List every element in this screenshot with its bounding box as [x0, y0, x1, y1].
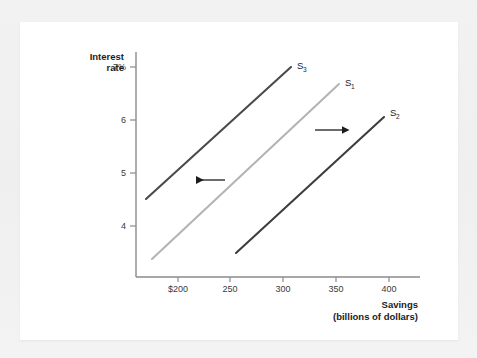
y-tick-label-5: 5 — [121, 168, 126, 178]
y-axis-title-line2: rate — [107, 62, 124, 73]
curve-s3-label-subscript: 3 — [303, 66, 307, 73]
x-axis-ticks — [178, 277, 389, 282]
x-axis-title: Savings (billions of dollars) — [333, 299, 418, 322]
x-tick-label-350: 350 — [328, 284, 343, 294]
curve-s1-line — [152, 84, 339, 259]
x-axis-title-line1: Savings — [382, 299, 418, 310]
curve-s2-line — [236, 117, 384, 253]
curve-s2: S 2 — [236, 107, 400, 253]
x-tick-label-400: 400 — [381, 284, 396, 294]
y-axis-title-line1: Interest — [90, 51, 125, 62]
curve-s1: S 1 — [152, 77, 355, 259]
x-axis-tick-labels: $200 250 300 350 400 — [168, 284, 397, 294]
x-tick-label-200: $200 — [168, 284, 188, 294]
chart-axes — [136, 52, 420, 277]
x-tick-label-300: 300 — [275, 284, 290, 294]
x-axis-title-line2: (billions of dollars) — [333, 311, 418, 322]
y-axis-ticks — [130, 67, 136, 226]
curve-s2-label-subscript: 2 — [396, 113, 400, 120]
savings-supply-chart: 7% 6 5 4 $200 250 300 350 400 Interest r… — [0, 0, 477, 358]
curve-s1-label-subscript: 1 — [351, 83, 355, 90]
y-axis-title: Interest rate — [90, 51, 125, 73]
y-tick-label-6: 6 — [121, 115, 126, 125]
curve-s3-line — [146, 67, 291, 199]
figure-root: 7% 6 5 4 $200 250 300 350 400 Interest r… — [0, 0, 477, 358]
curve-s3: S 3 — [146, 60, 307, 199]
y-tick-label-4: 4 — [121, 221, 126, 231]
x-tick-label-250: 250 — [222, 284, 237, 294]
y-axis-tick-labels: 7% 6 5 4 — [113, 62, 126, 231]
